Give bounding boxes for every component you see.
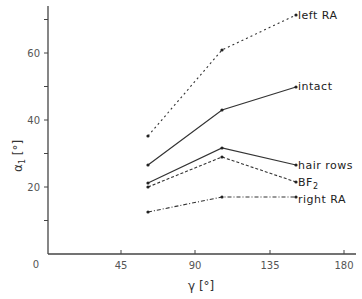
series-right-ra-line — [148, 197, 296, 212]
origin-label: 0 — [33, 259, 39, 270]
y-tick-label-40: 40 — [27, 115, 40, 126]
series-label-hair-rows: hair rows — [298, 159, 353, 172]
line-chart: 20 40 60 0 45 90 135 180 γ [°] α1 [°] le… — [0, 0, 362, 299]
y-axis-title-unit: [°] — [11, 140, 25, 159]
y-axis-title-main: α — [11, 164, 25, 172]
svg-text:α1 [°]: α1 [°] — [11, 140, 27, 172]
x-tick-label-45: 45 — [115, 260, 128, 271]
data-point-markers — [146, 13, 297, 213]
series-intact-line — [148, 87, 296, 165]
y-axis-title: α1 [°] — [11, 140, 27, 172]
x-tick-label-180: 180 — [334, 260, 353, 271]
x-tick-label-135: 135 — [260, 260, 279, 271]
series-label-left-ra: left RA — [298, 9, 338, 22]
series-label-bf2-sub: 2 — [313, 182, 319, 191]
series-label-bf2-main: BF — [298, 176, 313, 189]
series-left-ra-line — [148, 15, 296, 136]
series-hair-rows-line — [148, 148, 296, 183]
x-axis-title: γ [°] — [188, 279, 214, 293]
series-label-right-ra: right RA — [298, 193, 346, 206]
series-label-bf2: BF2 — [298, 176, 318, 191]
y-tick-label-20: 20 — [27, 182, 40, 193]
x-tick-label-90: 90 — [189, 260, 202, 271]
series-label-intact: intact — [298, 80, 333, 93]
y-tick-label-60: 60 — [27, 48, 40, 59]
